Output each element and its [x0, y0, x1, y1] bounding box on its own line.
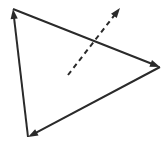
diagram-canvas	[0, 0, 167, 147]
arrowhead-at-vertex-c	[28, 129, 39, 137]
dashed-arrow-shaft	[68, 13, 116, 75]
triangle-edge-top	[13, 9, 155, 65]
triangle-edges	[13, 9, 160, 137]
triangle-arrowheads	[11, 9, 160, 137]
arrowhead-at-vertex-b	[149, 60, 160, 67]
geometry-diagram	[0, 0, 167, 147]
triangle-edge-right	[33, 67, 160, 134]
triangle-edge-left	[14, 14, 28, 137]
